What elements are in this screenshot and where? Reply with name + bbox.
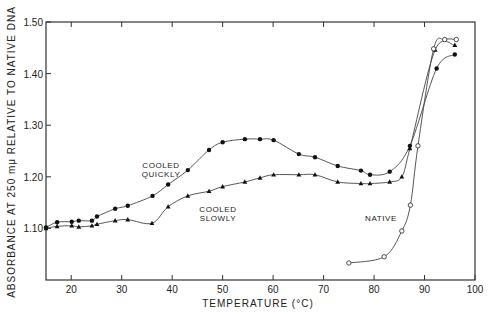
marker-cooled-quickly	[388, 169, 392, 173]
x-axis-title: TEMPERATURE (°C)	[202, 298, 313, 309]
marker-cooled-quickly	[271, 138, 275, 142]
marker-cooled-quickly	[207, 148, 211, 152]
y-tick-label: 1.20	[24, 172, 44, 183]
marker-native	[431, 47, 435, 51]
label-cooled-slowly-line2: SLOWLY	[200, 214, 236, 223]
marker-cooled-quickly	[258, 137, 262, 141]
marker-cooled-quickly	[297, 152, 301, 156]
x-tick-label: 30	[116, 284, 128, 295]
y-tick-label: 1.40	[24, 69, 44, 80]
marker-cooled-slowly	[399, 174, 404, 178]
marker-cooled-quickly	[453, 52, 457, 56]
label-cooled-quickly-line1: COOLED	[142, 161, 179, 170]
x-tick-label: 20	[66, 284, 78, 295]
y-tick-label: 1.30	[24, 120, 44, 131]
marker-native	[382, 255, 386, 259]
label-native: NATIVE	[365, 214, 397, 223]
x-tick-label: 80	[368, 284, 380, 295]
marker-cooled-quickly	[336, 164, 340, 168]
x-tick-label: 40	[167, 284, 179, 295]
marker-native	[400, 229, 404, 233]
marker-cooled-quickly	[368, 173, 372, 177]
marker-cooled-quickly	[77, 218, 81, 222]
marker-cooled-quickly	[313, 155, 317, 159]
x-tick-label: 100	[467, 284, 484, 295]
marker-cooled-quickly	[434, 66, 438, 70]
marker-cooled-quickly	[90, 218, 94, 222]
y-axis-title: ABSORBANCE AT 250 mμ RELATIVE TO NATIVE …	[6, 6, 17, 298]
curve-cooled-slowly	[46, 41, 455, 228]
x-tick-label: 60	[268, 284, 280, 295]
marker-cooled-quickly	[113, 207, 117, 211]
marker-cooled-quickly	[359, 168, 363, 172]
axis-ticks: 20304050607080901001.101.201.301.401.50	[24, 17, 484, 295]
label-cooled-slowly-line1: COOLED	[199, 205, 236, 214]
plot-frame	[46, 22, 475, 280]
data-markers	[44, 37, 459, 265]
x-tick-label: 90	[419, 284, 431, 295]
plot-border	[46, 22, 475, 280]
x-tick-label: 50	[217, 284, 229, 295]
absorbance-temperature-chart: 20304050607080901001.101.201.301.401.50 …	[0, 0, 490, 315]
marker-cooled-quickly	[243, 137, 247, 141]
marker-cooled-quickly	[95, 214, 99, 218]
marker-cooled-quickly	[186, 168, 190, 172]
marker-native	[443, 37, 447, 41]
y-tick-label: 1.50	[24, 17, 44, 28]
label-cooled-quickly-line2: QUICKLY	[142, 170, 181, 179]
marker-native	[454, 37, 458, 41]
marker-native	[347, 261, 351, 265]
marker-native	[408, 203, 412, 207]
marker-cooled-quickly	[150, 194, 154, 198]
curve-cooled-quickly	[46, 55, 455, 228]
data-curves	[46, 38, 456, 263]
y-tick-label: 1.10	[24, 223, 44, 234]
marker-cooled-quickly	[220, 140, 224, 144]
x-tick-label: 70	[318, 284, 330, 295]
marker-cooled-quickly	[126, 203, 130, 207]
marker-cooled-slowly	[166, 204, 171, 208]
marker-cooled-quickly	[166, 182, 170, 186]
marker-native	[416, 144, 420, 148]
